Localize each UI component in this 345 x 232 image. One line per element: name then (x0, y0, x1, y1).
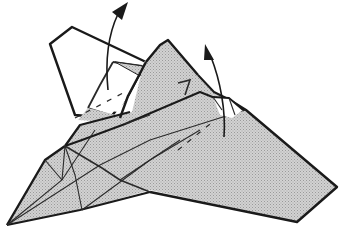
left-flap (50, 27, 146, 122)
airplane-body (7, 40, 337, 225)
origami-diagram: Paper airplane origami step: open flaps … (0, 0, 345, 232)
diagram-svg (0, 0, 345, 232)
